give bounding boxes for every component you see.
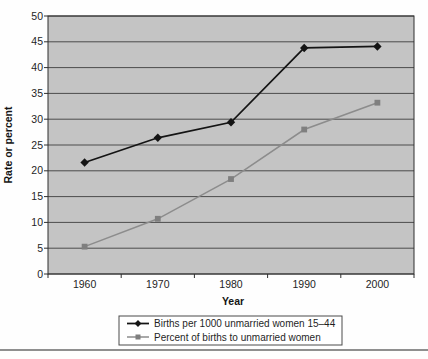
y-tick-label: 25: [31, 139, 43, 151]
y-tick-label: 10: [31, 216, 43, 228]
data-point-marker: [155, 216, 161, 222]
legend-label: Births per 1000 unmarried women 15–44: [154, 318, 336, 329]
y-tick-label: 35: [31, 87, 43, 99]
y-tick-label: 30: [31, 113, 43, 125]
y-tick-label: 5: [37, 242, 43, 254]
y-tick-label: 45: [31, 35, 43, 47]
y-tick-label: 0: [37, 268, 43, 280]
legend-item: Births per 1000 unmarried women 15–44: [127, 318, 336, 329]
chart-figure: 0510152025303540455019601970198019902000…: [0, 0, 428, 359]
x-tick-label: 1960: [73, 278, 97, 290]
square-marker-icon: [136, 335, 141, 340]
legend-label: Percent of births to unmarried women: [154, 332, 321, 343]
y-tick-label: 15: [31, 190, 43, 202]
x-tick-label: 2000: [366, 278, 390, 290]
x-tick-label: 1970: [146, 278, 170, 290]
y-axis-title: Rate or percent: [2, 106, 14, 184]
y-tick-label: 20: [31, 164, 43, 176]
x-axis-title: Year: [222, 295, 244, 307]
x-tick-label: 1980: [219, 278, 243, 290]
y-tick-label: 50: [31, 10, 43, 22]
data-point-marker: [228, 176, 234, 182]
legend: Births per 1000 unmarried women 15–44Per…: [119, 316, 342, 345]
x-tick-label: 1990: [293, 278, 317, 290]
line-chart: 0510152025303540455019601970198019902000…: [0, 0, 428, 359]
y-tick-label: 40: [31, 61, 43, 73]
legend-item: Percent of births to unmarried women: [127, 332, 321, 343]
data-point-marker: [375, 100, 381, 106]
data-point-marker: [82, 244, 88, 250]
data-point-marker: [301, 127, 307, 133]
